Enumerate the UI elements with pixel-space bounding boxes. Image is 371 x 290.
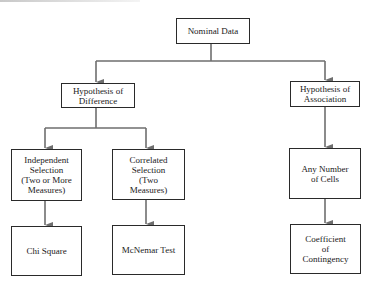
node-mcnemar-test: McNemar Test xyxy=(112,225,185,275)
node-nominal-data: Nominal Data xyxy=(176,18,250,44)
node-chi-square: Chi Square xyxy=(11,226,82,276)
node-independent-selection: Independent Selection (Two or More Measu… xyxy=(11,149,82,201)
node-hypothesis-of-association: Hypothesis of Association xyxy=(290,81,360,107)
node-correlated-selection: Correlated Selection (Two Measures) xyxy=(112,149,185,200)
node-coefficient-of-contingency: Coefficient of Contingency xyxy=(290,224,361,274)
node-hypothesis-of-difference: Hypothesis of Difference xyxy=(61,83,135,108)
node-any-number-of-cells: Any Number of Cells xyxy=(289,148,361,199)
